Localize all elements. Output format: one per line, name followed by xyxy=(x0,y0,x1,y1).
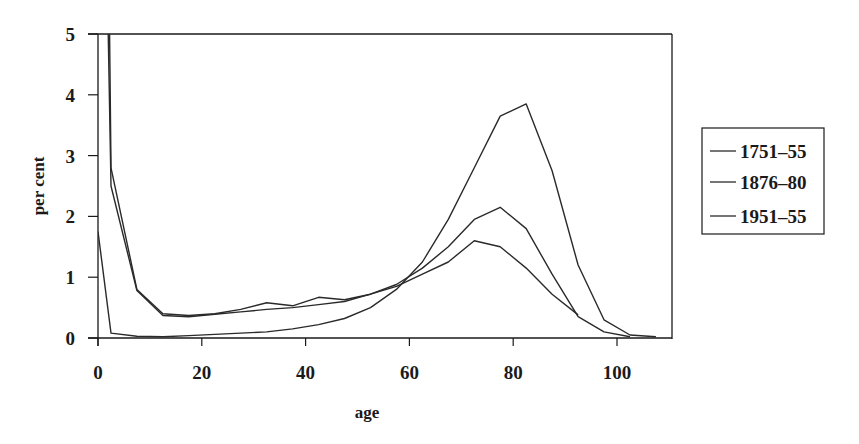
y-tick-label: 0 xyxy=(66,328,76,349)
legend: 1751–55 1876–80 1951–55 xyxy=(702,128,824,234)
legend-label: 1951–55 xyxy=(740,206,807,227)
legend-label: 1876–80 xyxy=(740,172,807,193)
series-line-1876-80 xyxy=(108,16,630,337)
y-tick-label: 4 xyxy=(66,85,76,106)
y-axis: 012345 xyxy=(66,24,99,349)
x-tick-label: 60 xyxy=(400,362,419,383)
y-tick-label: 3 xyxy=(66,146,76,167)
x-tick-label: 80 xyxy=(504,362,523,383)
y-tick-label: 5 xyxy=(66,24,76,45)
x-tick-label: 0 xyxy=(93,362,103,383)
series-line-1751-55 xyxy=(109,16,578,316)
y-tick-label: 2 xyxy=(66,206,76,227)
x-tick-label: 40 xyxy=(296,362,315,383)
x-axis: 020406080100 xyxy=(93,338,631,383)
y-tick-label: 1 xyxy=(66,267,76,288)
series-line-1951-55 xyxy=(98,104,656,337)
legend-label: 1751–55 xyxy=(740,141,807,162)
series-lines xyxy=(98,16,656,337)
y-axis-title: per cent xyxy=(29,156,48,215)
x-axis-title: age xyxy=(355,403,380,422)
x-tick-label: 20 xyxy=(192,362,211,383)
plot-area xyxy=(88,34,672,346)
age-distribution-chart: 012345 020406080100 per cent age 1751–55… xyxy=(0,0,859,444)
x-tick-label: 100 xyxy=(603,362,632,383)
